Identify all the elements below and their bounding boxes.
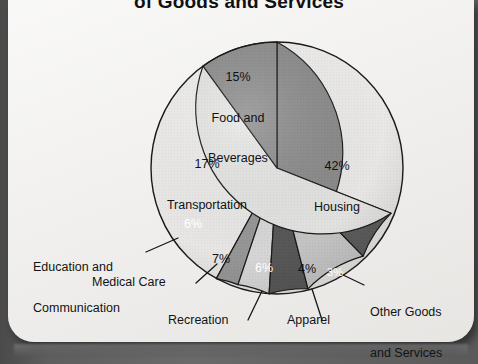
pie-label-recreation-value: 6%: [249, 262, 279, 276]
pie-label-food-name-line1: Food and: [186, 112, 290, 126]
pie-label-apparel-value: 4%: [292, 263, 322, 277]
pie-callout-other-goods-and-services: Other Goods and Services: [370, 279, 470, 364]
leader-line-education: [146, 238, 178, 252]
pie-callout-other-line2: and Services: [370, 347, 470, 361]
pie-label-transportation-value: 17%: [148, 158, 266, 172]
pie-label-housing-value: 42%: [297, 160, 377, 174]
pie-label-medical-value: 7%: [206, 253, 236, 267]
pie-label-housing-name: Housing: [297, 201, 377, 215]
chart-title: of Goods and Services: [0, 0, 478, 13]
pie-label-education-value: 6%: [178, 218, 208, 232]
pie-label-other-value: 3%: [322, 266, 348, 280]
pie-callout-education-line2: Communication: [33, 302, 148, 316]
pie-callout-medical-care: Medical Care: [92, 276, 196, 290]
pie-label-food-value: 15%: [186, 71, 290, 85]
pie-chart-stage: 42% Housing 15% Food and Beverages 17% T…: [0, 0, 478, 364]
pie-callout-apparel: Apparel: [287, 314, 357, 328]
pie-label-housing: 42% Housing: [297, 133, 377, 241]
pie-label-transportation-name: Transportation: [148, 199, 266, 213]
pie-callout-recreation: Recreation: [168, 314, 260, 328]
pie-callout-education-line1: Education and: [33, 261, 148, 275]
pie-callout-other-line1: Other Goods: [370, 306, 470, 320]
